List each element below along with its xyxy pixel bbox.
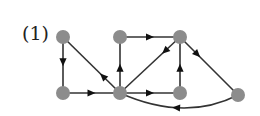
edge-E-A (63, 37, 120, 93)
edges-group (63, 37, 238, 108)
arrowhead-icon (146, 33, 154, 40)
node-C (113, 30, 127, 44)
edge-D-E (120, 37, 180, 93)
arrowhead-icon (172, 104, 180, 111)
node-D (173, 30, 187, 44)
node-E (113, 86, 127, 100)
directed-graph (0, 0, 260, 116)
arrowhead-icon (146, 89, 154, 96)
edge-D-G (180, 37, 238, 95)
node-A (56, 30, 70, 44)
arrowhead-icon (116, 64, 123, 72)
arrowhead-icon (88, 89, 96, 96)
node-F (173, 86, 187, 100)
nodes-group (56, 30, 245, 102)
arrowhead-icon (176, 64, 183, 72)
arrowhead-icon (59, 58, 66, 66)
node-G (231, 88, 245, 102)
node-B (56, 86, 70, 100)
